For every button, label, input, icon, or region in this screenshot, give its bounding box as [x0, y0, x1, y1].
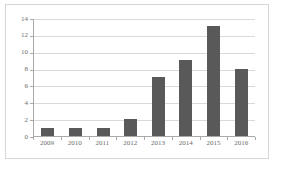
x-axis-tick-mark: [33, 137, 34, 140]
x-axis-tick-label: 2016: [227, 140, 255, 147]
bar-slot: [227, 19, 255, 136]
y-axis-tick-mark: [30, 19, 33, 20]
bar: [69, 128, 82, 136]
y-axis-tick-label: 8: [6, 66, 28, 73]
bar-slot: [34, 19, 62, 136]
x-axis-tick-label: 2010: [61, 140, 89, 147]
bar: [179, 60, 192, 136]
x-axis-tick-mark: [89, 137, 90, 140]
y-axis-tick-mark: [30, 103, 33, 104]
bar: [124, 119, 137, 136]
bar: [207, 26, 220, 136]
y-axis-tick-label: 0: [6, 134, 28, 141]
x-axis-tick-mark: [61, 137, 62, 140]
plot-area: [33, 19, 255, 137]
y-axis-tick-mark: [30, 86, 33, 87]
x-axis-tick-mark: [144, 137, 145, 140]
y-axis-tick-mark: [30, 53, 33, 54]
bar: [41, 128, 54, 136]
x-axis-tick-label: 2014: [172, 140, 200, 147]
x-axis-tick-label: 2011: [89, 140, 117, 147]
bar-series: [34, 19, 255, 136]
y-axis-tick-label: 12: [6, 32, 28, 39]
y-axis-tick-mark: [30, 36, 33, 37]
y-axis-tick-label: 4: [6, 100, 28, 107]
bar-slot: [89, 19, 117, 136]
y-axis-tick-mark: [30, 120, 33, 121]
bar: [152, 77, 165, 136]
x-axis-tick-mark: [255, 137, 256, 140]
bar-slot: [145, 19, 173, 136]
x-axis-tick-label: 2012: [116, 140, 144, 147]
x-axis-tick-mark: [116, 137, 117, 140]
y-axis-tick-label: 6: [6, 83, 28, 90]
x-axis-tick-mark: [172, 137, 173, 140]
y-axis-tick-label: 14: [6, 16, 28, 23]
y-axis-tick-label: 2: [6, 117, 28, 124]
x-axis-tick-mark: [200, 137, 201, 140]
bar: [97, 128, 110, 136]
x-axis-tick-label: 2015: [200, 140, 228, 147]
bar-slot: [200, 19, 228, 136]
x-axis-tick-mark: [227, 137, 228, 140]
x-axis-tick-labels: 20092010201120122013201420152016: [33, 140, 255, 147]
bar-slot: [62, 19, 90, 136]
y-axis-tick-label: 10: [6, 49, 28, 56]
bar-chart-figure: 02468101214 2009201020112012201320142015…: [5, 4, 269, 159]
y-axis-tick-mark: [30, 70, 33, 71]
x-axis-tick-label: 2013: [144, 140, 172, 147]
bar-slot: [117, 19, 145, 136]
bar-slot: [172, 19, 200, 136]
x-axis-tick-label: 2009: [33, 140, 61, 147]
bar: [235, 69, 248, 136]
